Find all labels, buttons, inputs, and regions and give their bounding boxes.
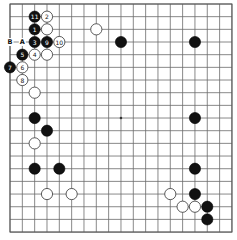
move-number: 6 — [20, 64, 24, 71]
white-stone — [41, 188, 52, 199]
white-stone-6: 6 — [17, 62, 28, 73]
black-stone — [189, 163, 200, 174]
black-stone-disc — [189, 188, 200, 199]
white-stone-disc — [41, 49, 52, 60]
move-number: 5 — [20, 51, 24, 58]
black-stone — [115, 36, 126, 47]
white-stone — [177, 201, 188, 212]
go-board[interactable]: BA 1121391054768 — [0, 0, 237, 240]
white-stone-disc — [29, 87, 40, 98]
white-stone — [29, 138, 40, 149]
move-number: 2 — [45, 13, 49, 20]
white-stone-10: 10 — [54, 36, 65, 47]
white-stone — [41, 24, 52, 35]
black-stone — [54, 163, 65, 174]
black-stone-disc — [29, 163, 40, 174]
black-stone-disc — [202, 201, 213, 212]
white-stone — [41, 49, 52, 60]
white-stone-disc — [41, 188, 52, 199]
white-stone — [165, 188, 176, 199]
black-stone — [189, 36, 200, 47]
star-points — [120, 117, 123, 120]
move-number: 7 — [8, 64, 12, 71]
white-stone — [91, 24, 102, 35]
black-stone-7: 7 — [4, 62, 15, 73]
white-stone — [29, 87, 40, 98]
black-stone — [189, 188, 200, 199]
move-number: 3 — [33, 39, 37, 46]
white-stone-disc — [29, 138, 40, 149]
move-number: 9 — [45, 39, 49, 46]
move-number: 8 — [20, 77, 24, 84]
black-stone — [189, 112, 200, 123]
black-stone — [29, 112, 40, 123]
black-stone-5: 5 — [17, 49, 28, 60]
move-number: 1 — [33, 26, 37, 33]
black-stone — [202, 201, 213, 212]
black-stone-disc — [189, 112, 200, 123]
black-stone-disc — [115, 36, 126, 47]
white-stone-disc — [66, 188, 77, 199]
marker-label: A — [20, 38, 25, 46]
move-number: 4 — [33, 51, 37, 58]
white-stone-8: 8 — [17, 74, 28, 85]
star-point — [120, 117, 123, 120]
white-stone-disc — [41, 24, 52, 35]
white-stone — [189, 201, 200, 212]
white-stone-disc — [189, 201, 200, 212]
white-stone-4: 4 — [29, 49, 40, 60]
black-stone — [29, 163, 40, 174]
black-stone-1: 1 — [29, 24, 40, 35]
black-stone — [202, 214, 213, 225]
black-stone-11: 11 — [29, 11, 40, 22]
black-stone-9: 9 — [41, 36, 52, 47]
marker-a[interactable]: A — [19, 38, 26, 46]
white-stone-disc — [165, 188, 176, 199]
move-number: 10 — [55, 39, 63, 46]
marker-b[interactable]: B — [7, 38, 14, 46]
move-number: 11 — [31, 13, 39, 20]
black-stone-disc — [189, 36, 200, 47]
white-stone-2: 2 — [41, 11, 52, 22]
white-stone-disc — [91, 24, 102, 35]
black-stone-disc — [54, 163, 65, 174]
black-stone-3: 3 — [29, 36, 40, 47]
white-stone — [66, 188, 77, 199]
black-stone — [41, 125, 52, 136]
black-stone-disc — [41, 125, 52, 136]
black-stone-disc — [29, 112, 40, 123]
black-stone-disc — [202, 214, 213, 225]
black-stone-disc — [189, 163, 200, 174]
marker-label: B — [8, 38, 13, 46]
white-stone-disc — [177, 201, 188, 212]
